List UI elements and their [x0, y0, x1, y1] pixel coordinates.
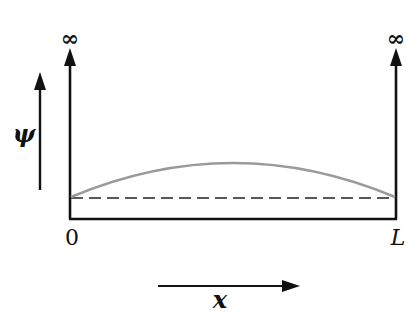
left-infinity-label: ∞: [61, 25, 79, 51]
x-axis-label: x: [212, 285, 228, 314]
origin-label: 0: [65, 225, 79, 250]
psi-axis-label: ψ: [13, 119, 37, 148]
wavefunction-curve: [71, 163, 395, 197]
right-wall: [390, 48, 402, 219]
x-axis-arrow: [158, 280, 300, 292]
up-arrowhead-icon: [34, 72, 46, 90]
psi-axis-arrow: [34, 72, 46, 190]
left-wall: [64, 48, 76, 219]
right-arrowhead-icon: [282, 280, 300, 292]
right-infinity-label: ∞: [387, 25, 405, 51]
length-label: L: [390, 225, 406, 250]
infinite-well-diagram: ∞ ∞ ψ 0 L x: [0, 0, 417, 325]
